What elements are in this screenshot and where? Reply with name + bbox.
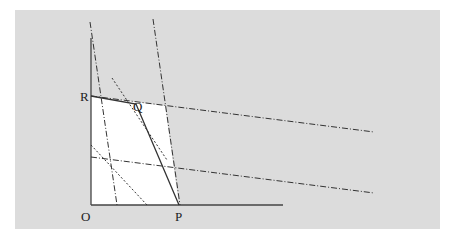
label-r: R <box>80 89 89 104</box>
label-q: Q <box>133 99 143 114</box>
label-p: P <box>175 209 182 224</box>
label-o: O <box>81 209 90 224</box>
diagram: R Q O P <box>0 0 452 243</box>
